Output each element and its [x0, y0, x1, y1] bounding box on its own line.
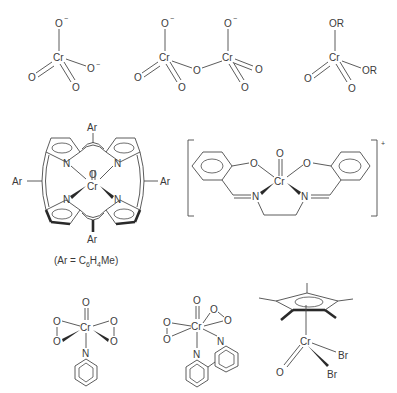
- atom-o: O: [193, 295, 201, 306]
- atom-o: O: [250, 158, 258, 169]
- atom-cr: Cr: [191, 321, 202, 332]
- atom-cr: Cr: [329, 52, 340, 63]
- oxo-porphyrin-structure: O Cr N N N N: [12, 122, 171, 268]
- atom-cr: Cr: [300, 336, 311, 347]
- atom-o: O: [110, 316, 118, 327]
- atom-o: O: [303, 158, 311, 169]
- atom-cr: Cr: [87, 181, 98, 192]
- atom-n: N: [63, 194, 70, 205]
- atom-o: O: [163, 334, 171, 345]
- atom-n: N: [301, 191, 308, 202]
- atom-o: O: [178, 82, 186, 93]
- atom-o: O: [241, 82, 249, 93]
- oxo-salen-structure: + O O Cr O N N: [188, 140, 385, 216]
- atom-br: Br: [327, 369, 338, 380]
- atom-o: O: [87, 63, 95, 74]
- atom-ar: Ar: [160, 176, 171, 187]
- atom-o: O: [110, 336, 118, 347]
- atom-o: O: [276, 367, 284, 378]
- atom-n: N: [114, 158, 121, 169]
- atom-cr: Cr: [53, 52, 64, 63]
- atom-n: N: [82, 348, 89, 359]
- atom-n: N: [193, 349, 200, 360]
- atom-o: O: [348, 83, 356, 94]
- atom-o: O: [163, 317, 171, 328]
- svg-text:−: −: [233, 15, 237, 22]
- atom-or: OR: [329, 18, 344, 29]
- atom-o-bridge: O: [193, 65, 201, 76]
- atom-o: O: [28, 72, 36, 83]
- atom-o: O: [89, 169, 97, 180]
- atom-or: OR: [362, 65, 377, 76]
- cp-star-oxo-dibromide-structure: Cr Br Br O: [259, 283, 353, 380]
- atom-n: N: [252, 191, 259, 202]
- atom-ar: Ar: [87, 234, 98, 245]
- atom-o: O: [161, 18, 169, 29]
- chromate-ester-structure: OR Cr OR O O: [304, 18, 377, 94]
- atom-br: Br: [338, 350, 349, 361]
- atom-n: N: [217, 336, 224, 347]
- atom-cr: Cr: [274, 176, 285, 187]
- atom-cr: Cr: [80, 322, 91, 333]
- charge-label: +: [381, 140, 385, 147]
- atom-o: O: [255, 64, 263, 75]
- peroxo-bipyridine-structure: O Cr O O O O N N: [163, 295, 238, 387]
- chromium-compounds-figure: O − Cr O − O O O − Cr O O O O − Cr O O: [0, 0, 397, 393]
- svg-text:−: −: [64, 15, 68, 22]
- peroxo-pyridine-structure: O Cr O O O O N: [53, 297, 118, 386]
- atom-o: O: [134, 72, 142, 83]
- atom-ar: Ar: [87, 122, 98, 133]
- atom-o: O: [224, 315, 232, 326]
- atom-cr: Cr: [159, 52, 170, 63]
- atom-o: O: [55, 18, 63, 29]
- chromate-structure: O − Cr O − O O: [28, 15, 100, 93]
- atom-o: O: [210, 304, 218, 315]
- atom-o: O: [72, 82, 80, 93]
- atom-o: O: [53, 316, 61, 327]
- atom-o: O: [53, 336, 61, 347]
- svg-text:−: −: [96, 61, 100, 68]
- atom-ar: Ar: [12, 176, 23, 187]
- dichromate-structure: O − Cr O O O O − Cr O O: [134, 15, 263, 93]
- atom-o: O: [224, 18, 232, 29]
- atom-o: O: [276, 148, 284, 159]
- ar-definition-caption: (Ar = C6H4Me): [54, 255, 118, 268]
- atom-cr: Cr: [222, 52, 233, 63]
- atom-o: O: [82, 297, 90, 308]
- svg-text:−: −: [170, 15, 174, 22]
- atom-o: O: [304, 73, 312, 84]
